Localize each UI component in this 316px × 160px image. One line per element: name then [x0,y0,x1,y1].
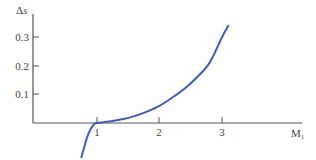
x-axis-label: M1 [291,127,305,141]
x-tick-label: 2 [156,126,162,138]
y-tick-label: 0.3 [15,31,29,43]
y-tick-label: 0.1 [15,88,29,100]
x-tick-label: 1 [94,126,100,138]
x-tick-label: 3 [219,126,225,138]
delta-s-curve [81,26,228,158]
y-tick-label: 0.2 [15,60,29,72]
y-axis-label: Δs [16,4,27,16]
chart: 0.3 0.2 0.1 Δs 1 2 3 M1 [0,0,316,160]
